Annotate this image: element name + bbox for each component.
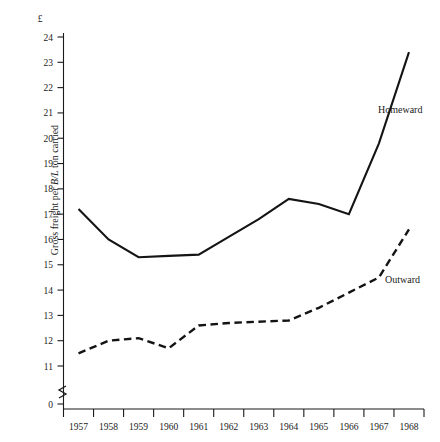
- x-axis-ticks: 1957195819591960196119621963196419651966…: [64, 409, 425, 432]
- y-tick-label: 24: [44, 33, 54, 43]
- chart-canvas: £ 2423222120191817161514131211 0 Gross f…: [0, 0, 440, 442]
- x-tick-label: 1960: [159, 422, 178, 432]
- x-tick-label: 1968: [399, 422, 418, 432]
- y-tick-label: 23: [44, 58, 54, 68]
- y-tick-label: 21: [44, 108, 54, 118]
- series-label-outward: Outward: [385, 274, 420, 285]
- y-tick-label: 15: [44, 260, 54, 270]
- x-tick-label: 1961: [189, 422, 208, 432]
- y-tick-label: 22: [44, 83, 54, 93]
- series-label-homeward: Homeward: [378, 104, 422, 115]
- axis-break-marker: [59, 386, 66, 398]
- x-tick-label: 1963: [249, 422, 268, 432]
- x-tick-label: 1962: [219, 422, 238, 432]
- freight-rates-line-chart: £ 2423222120191817161514131211 0 Gross f…: [0, 0, 440, 442]
- y-tick-label: 14: [44, 286, 54, 296]
- x-tick-label: 1965: [309, 422, 328, 432]
- series-line-homeward: [79, 52, 409, 257]
- x-tick-label: 1958: [99, 422, 118, 432]
- y-tick-label: 11: [44, 362, 53, 372]
- y-tick-label: 13: [44, 311, 54, 321]
- y-tick-label: 12: [44, 336, 54, 346]
- x-tick-label: 1957: [69, 422, 88, 432]
- x-tick-label: 1966: [339, 422, 358, 432]
- y-axis-zero-tick: 0: [48, 400, 63, 410]
- x-tick-label: 1964: [279, 422, 298, 432]
- x-tick-label: 1959: [129, 422, 148, 432]
- y-tick-label-zero: 0: [48, 400, 53, 410]
- series-line-outward: [79, 229, 409, 353]
- y-axis-title: Gross freight per B/L ton carried: [49, 125, 60, 255]
- currency-symbol: £: [38, 14, 43, 24]
- x-tick-label: 1967: [369, 422, 388, 432]
